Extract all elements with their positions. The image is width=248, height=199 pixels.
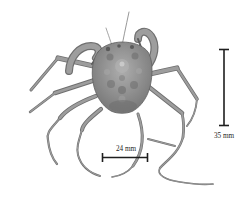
vertical-scale-bar: 35 mm <box>214 50 235 141</box>
crab-specimen-photo: 24 mm 35 mm <box>0 0 248 199</box>
figure-canvas: 24 mm 35 mm <box>0 0 248 199</box>
crab-carapace <box>92 42 152 113</box>
vertical-scale-label: 35 mm <box>214 132 235 140</box>
horizontal-scale-label: 24 mm <box>116 145 137 153</box>
crab-left-legs <box>30 58 101 176</box>
crab-illustration <box>30 12 213 184</box>
